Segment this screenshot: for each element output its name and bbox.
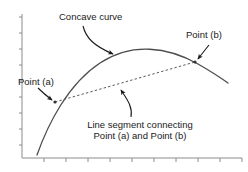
concave-curve-arrow-icon <box>83 26 113 54</box>
point-a-marker <box>53 100 56 103</box>
point-a-arrow-icon <box>38 88 52 100</box>
point-a-label: Point (a) <box>18 76 54 87</box>
point-b-arrow-icon <box>198 45 209 59</box>
point-b-label: Point (b) <box>186 29 222 40</box>
concave-curve-label: Concave curve <box>59 11 122 22</box>
line-segment-caption-line-1: Line segment connecting <box>87 119 193 130</box>
line-segment-arrow-icon <box>121 90 131 117</box>
concave-curve-diagram: Concave curve Point (a) Point (b) Line s… <box>0 0 248 172</box>
x-axis-ticks <box>44 158 242 162</box>
line-segment-caption-line-2: Point (a) and Point (b) <box>72 130 208 141</box>
line-segment-caption: Line segment connecting Point (a) and Po… <box>72 119 208 141</box>
point-b-marker <box>193 60 196 63</box>
